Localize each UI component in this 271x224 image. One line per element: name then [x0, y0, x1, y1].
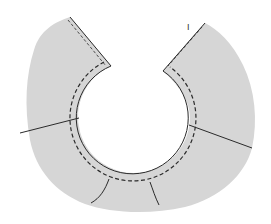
neckline-cutout — [76, 66, 188, 174]
collar-pattern-diagram: I — [0, 0, 271, 224]
corner-mark-label: I — [187, 23, 190, 32]
collar-pattern-svg — [0, 0, 271, 224]
collar-fabric-shape — [27, 17, 255, 212]
